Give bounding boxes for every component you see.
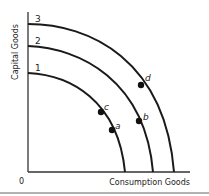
point-d: [138, 82, 144, 88]
ppf-curve-3: [28, 24, 174, 172]
point-b: [136, 118, 142, 124]
curve-label-3: 3: [35, 14, 41, 24]
ppf-curve-2: [28, 46, 153, 172]
point-label-d: d: [145, 73, 151, 83]
x-axis-label: Consumption Goods: [109, 178, 190, 187]
point-label-c: c: [104, 102, 109, 112]
y-axis-label: Capital Goods: [11, 24, 20, 80]
ppf-curve-1: [28, 73, 125, 172]
curve-label-1: 1: [35, 63, 41, 73]
point-label-a: a: [115, 121, 121, 131]
curve-label-2: 2: [35, 36, 41, 46]
origin-label: 0: [19, 177, 24, 186]
ppf-diagram: 3 2 1 c a b d Capital Goods Consumption …: [0, 0, 209, 196]
point-label-b: b: [143, 112, 149, 122]
